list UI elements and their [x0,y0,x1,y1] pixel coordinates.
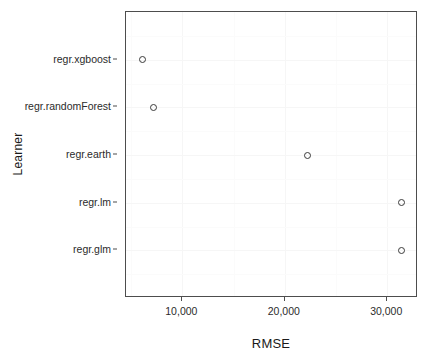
scatter-plot-figure: Learner regr.glmregr.lmregr.earthregr.ra… [0,0,440,362]
x-axis-tick-label: 30,000 [370,305,402,317]
x-axis-tick-label: 10,000 [165,305,197,317]
x-axis-tick-mark [386,297,387,301]
x-axis-title: RMSE [125,336,417,351]
x-axis-tick-label: 20,000 [268,305,300,317]
x-axis-tick-mark [181,297,182,301]
x-axis-tick-mark [284,297,285,301]
x-axis-tick-group: 10,00020,00030,000 [0,0,440,362]
